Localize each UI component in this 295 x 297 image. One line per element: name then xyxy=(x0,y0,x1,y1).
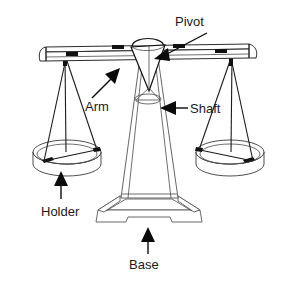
holder-right-group xyxy=(195,140,264,176)
arm-arrow-shaft xyxy=(92,78,112,98)
arm-right-end-cap xyxy=(249,44,257,58)
label-shaft: Shaft xyxy=(190,101,221,116)
holder-left-group xyxy=(33,140,101,176)
balance-scale-diagram: Pivot Arm Shaft Holder Base xyxy=(0,0,295,297)
label-holder: Holder xyxy=(41,204,80,219)
label-base: Base xyxy=(129,257,159,272)
arm-mark-2 xyxy=(112,45,124,49)
string-left-vertical xyxy=(65,57,66,152)
arm-arrow-head xyxy=(105,68,120,84)
string-right-vertical xyxy=(231,57,232,152)
label-pivot: Pivot xyxy=(175,14,204,29)
arm-left-end-cap xyxy=(39,47,46,61)
scale-illustration: Pivot Arm Shaft Holder Base xyxy=(0,0,295,297)
base-front-slab xyxy=(96,210,202,222)
base-arrow xyxy=(141,227,155,254)
base-group xyxy=(96,196,202,222)
arm-arrow xyxy=(92,68,120,98)
base-arrow-head xyxy=(141,227,155,242)
arm-mark-4 xyxy=(215,49,227,53)
label-arm: Arm xyxy=(85,99,109,114)
arm-mark-1 xyxy=(66,52,78,56)
